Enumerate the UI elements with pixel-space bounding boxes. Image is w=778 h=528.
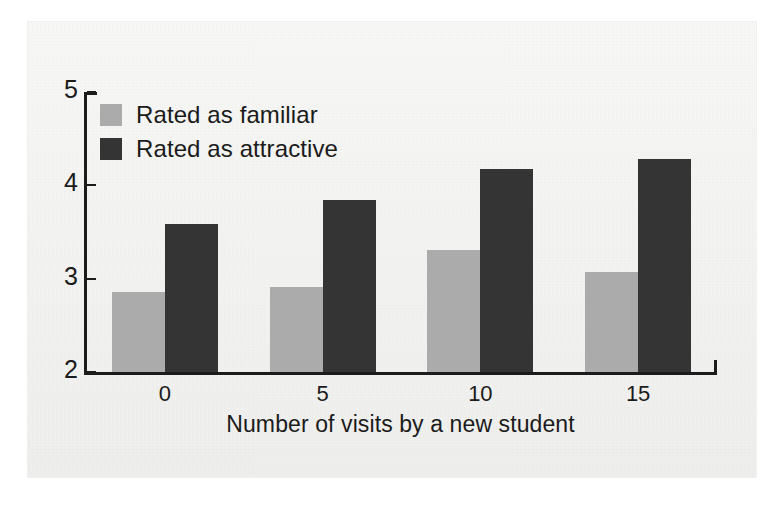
grouped-bar-chart: 2345 051015 Rated as familiar Rated as a… bbox=[0, 0, 778, 528]
legend-item-familiar: Rated as familiar bbox=[100, 98, 338, 132]
x-tick-label-15: 15 bbox=[608, 381, 668, 407]
bar-attractive-10 bbox=[480, 169, 533, 372]
y-tick-label-4: 4 bbox=[48, 168, 78, 197]
bar-familiar-10 bbox=[427, 250, 480, 372]
bar-attractive-5 bbox=[323, 200, 376, 372]
x-axis-line bbox=[84, 372, 717, 375]
scanned-figure-page: 2345 051015 Rated as familiar Rated as a… bbox=[0, 0, 778, 528]
bar-familiar-0 bbox=[112, 292, 165, 372]
x-axis-title: Number of visits by a new student bbox=[84, 411, 717, 438]
bar-attractive-15 bbox=[638, 159, 691, 372]
legend-item-attractive: Rated as attractive bbox=[100, 132, 338, 166]
y-tick-label-3: 3 bbox=[48, 262, 78, 291]
bar-attractive-0 bbox=[165, 224, 218, 372]
legend-label-familiar: Rated as familiar bbox=[136, 101, 318, 129]
bar-familiar-15 bbox=[585, 272, 638, 372]
x-tick-label-0: 0 bbox=[135, 381, 195, 407]
bar-familiar-5 bbox=[270, 287, 323, 372]
legend-label-attractive: Rated as attractive bbox=[136, 135, 338, 163]
y-tick-label-2: 2 bbox=[48, 355, 78, 384]
legend-swatch-familiar bbox=[100, 104, 122, 126]
chart-legend: Rated as familiar Rated as attractive bbox=[100, 98, 338, 166]
y-tick-label-5: 5 bbox=[48, 75, 78, 104]
legend-swatch-attractive bbox=[100, 138, 122, 160]
x-tick-label-10: 10 bbox=[450, 381, 510, 407]
x-tick-label-5: 5 bbox=[293, 381, 353, 407]
